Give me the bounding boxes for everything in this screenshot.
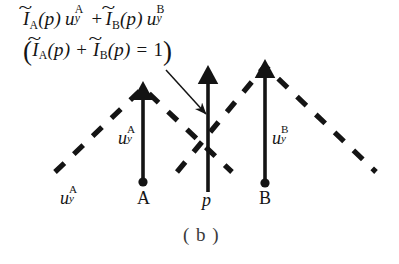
label-uyA-arrow-scripts: yA: [127, 126, 138, 144]
argument-p-b: (p): [120, 8, 143, 29]
operator-plus-1: +: [91, 8, 102, 29]
open-paren: (: [23, 36, 32, 66]
node-dot-B: [260, 178, 269, 187]
label-uyA-axis: uyA: [60, 186, 80, 209]
operator-plus-2: +: [76, 39, 87, 60]
figure-caption: ( b ): [183, 224, 220, 246]
symbol-u-b: u: [147, 8, 157, 29]
label-uyB-arrow-base: u: [272, 128, 281, 148]
superscript-A: A: [75, 4, 84, 16]
label-node-p: p: [202, 190, 211, 211]
operator-equals: =: [136, 39, 147, 60]
tilde-I-A: ~I: [23, 8, 30, 30]
u-a-scripts: yA: [75, 6, 87, 25]
tilde-I-B: ~I: [105, 8, 112, 30]
label-uyA-axis-scripts: yA: [69, 186, 80, 204]
value-one: 1: [153, 39, 163, 60]
label-uyA-arrow: uyA: [118, 126, 138, 149]
formula-line-interpolation: ~IA(p)uyA+~IB(p)uyB: [23, 6, 243, 36]
argument-p-a-2: (p): [47, 39, 70, 60]
subscript-A-2: A: [39, 49, 48, 62]
argument-p-a: (p): [38, 8, 61, 29]
label-node-A: A: [137, 188, 150, 209]
tilde-I-A-2: ~I: [32, 39, 39, 61]
pointer-arrow-to-p: [166, 70, 206, 114]
formula-block: ~IA(p)uyA+~IB(p)uyB (~IA(p)+~IB(p)=1): [23, 6, 243, 68]
subscript-A: A: [30, 19, 39, 32]
tilde-I-B-2: ~I: [93, 39, 100, 61]
arrow-uyA: [138, 96, 147, 187]
label-uyA-axis-sup: A: [69, 184, 77, 195]
close-paren: ): [163, 36, 172, 66]
figure-b-container: ~IA(p)uyA+~IB(p)uyB (~IA(p)+~IB(p)=1) uy…: [0, 0, 399, 264]
label-node-B: B: [259, 188, 271, 209]
symbol-I-A-base: I: [23, 8, 30, 29]
label-uyA-axis-base: u: [60, 188, 69, 208]
u-b-scripts: yB: [156, 6, 168, 25]
symbol-I-B-base: I: [105, 8, 112, 29]
superscript-B: B: [156, 4, 164, 16]
label-uyB-arrow-scripts: yB: [281, 126, 292, 144]
label-uyB-arrow: uyB: [272, 126, 292, 149]
label-uyA-arrow-base: u: [118, 128, 127, 148]
label-uyB-arrow-sup: B: [281, 124, 288, 135]
symbol-I-A-base-2: I: [32, 39, 39, 60]
arrow-uyB: [260, 74, 269, 188]
argument-p-b-2: (p): [108, 39, 131, 60]
symbol-u-a: u: [65, 8, 75, 29]
subscript-B-2: B: [100, 49, 108, 62]
symbol-I-B-base-2: I: [93, 39, 100, 60]
label-uyA-arrow-sup: A: [127, 124, 135, 135]
subscript-B: B: [112, 19, 120, 32]
formula-line-partition-of-unity: (~IA(p)+~IB(p)=1): [23, 36, 243, 68]
node-dot-A: [138, 177, 147, 186]
